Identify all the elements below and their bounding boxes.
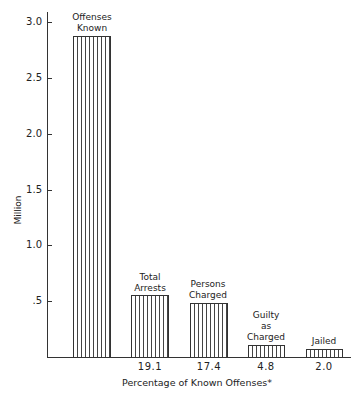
y-tick-label: 3.0 — [2, 17, 42, 27]
y-tick-label: 2.5 — [2, 73, 42, 83]
bar-label-persons-charged: Persons Charged — [178, 279, 238, 301]
bar-label-line: Jailed — [294, 336, 354, 347]
y-tick — [47, 190, 52, 191]
y-tick — [47, 134, 52, 135]
bar-chart: Million .5 1.0 1.5 2.0 2.5 3.0 Offenses … — [0, 0, 364, 394]
bar-offenses-known — [73, 36, 111, 358]
bar-guilty-as-charged — [248, 345, 285, 358]
y-tick — [47, 22, 52, 23]
bar-label-offenses-known: Offenses Known — [62, 12, 122, 34]
y-tick-label: .5 — [2, 296, 42, 306]
bar-jailed — [306, 349, 343, 358]
bar-label-line: Charged — [236, 332, 296, 343]
y-tick — [47, 78, 52, 79]
bar-label-jailed: Jailed — [294, 336, 354, 347]
percent-label: 4.8 — [246, 361, 286, 372]
y-tick-label: 1.0 — [2, 240, 42, 250]
x-axis-label: Percentage of Known Offenses* — [0, 377, 364, 388]
bar-label-line: as — [236, 321, 296, 332]
y-tick-label: 2.0 — [2, 129, 42, 139]
y-tick — [47, 301, 52, 302]
bar-label-line: Total — [120, 272, 180, 283]
bar-label-total-arrests: Total Arrests — [120, 272, 180, 294]
bar-label-line: Charged — [178, 290, 238, 301]
percent-label: 19.1 — [130, 361, 170, 372]
bar-label-line: Arrests — [120, 283, 180, 294]
y-tick-label: 1.5 — [2, 185, 42, 195]
bar-label-line: Guilty — [236, 310, 296, 321]
bar-total-arrests — [131, 295, 169, 358]
percent-label: 2.0 — [304, 361, 344, 372]
bar-label-line: Persons — [178, 279, 238, 290]
y-axis-line — [47, 12, 48, 358]
bar-label-line: Known — [62, 23, 122, 34]
bar-label-line: Offenses — [62, 12, 122, 23]
percent-label: 17.4 — [189, 361, 229, 372]
bar-persons-charged — [190, 303, 228, 358]
bar-label-guilty-as-charged: Guilty as Charged — [236, 310, 296, 343]
y-tick — [47, 245, 52, 246]
